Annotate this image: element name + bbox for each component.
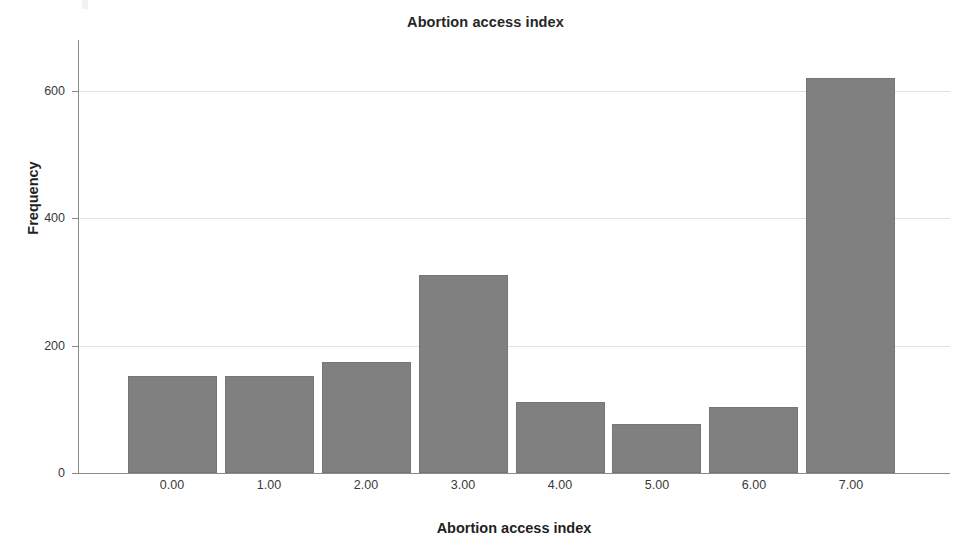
x-tick-label-6.00: 6.00 [706,478,802,492]
x-tick-label-2.00: 2.00 [318,478,414,492]
bar-5.00 [612,424,701,473]
bar-4.00 [516,402,605,473]
bar-series [0,0,971,553]
bar-1.00 [225,376,314,473]
x-tick-label-0.00: 0.00 [124,478,220,492]
bar-3.00 [419,275,508,473]
chart-container: Abortion access index 0200400600 Frequen… [0,0,971,553]
x-tick-label-5.00: 5.00 [609,478,705,492]
bar-6.00 [709,407,798,473]
bar-0.00 [128,376,217,473]
bar-7.00 [806,78,895,473]
x-tick-label-4.00: 4.00 [512,478,608,492]
bar-2.00 [322,362,411,473]
x-tick-label-7.00: 7.00 [803,478,899,492]
x-tick-label-1.00: 1.00 [221,478,317,492]
x-tick-label-3.00: 3.00 [415,478,511,492]
x-axis-title: Abortion access index [78,520,950,536]
